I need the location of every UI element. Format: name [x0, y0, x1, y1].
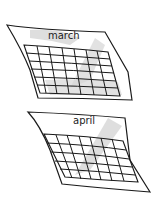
march-label: march: [48, 30, 80, 41]
april-label: april: [73, 115, 95, 126]
